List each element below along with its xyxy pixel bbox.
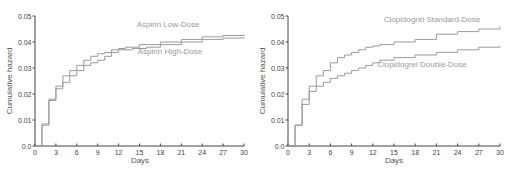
x-tick-label: 6 xyxy=(328,149,332,156)
series-label-double-dose: Clopidogrel Double-Dose xyxy=(377,60,467,69)
y-tick-label: 0.03 xyxy=(271,65,285,72)
x-tick-label: 18 xyxy=(411,149,419,156)
y-axis-label: Cumulative hazard xyxy=(258,48,267,115)
y-tick-label: 0.01 xyxy=(18,117,32,124)
y-tick-label: 0.05 xyxy=(271,13,285,20)
y-tick-label: 0.02 xyxy=(271,91,285,98)
axes: 0369121518212427300.00.010.020.030.040.0… xyxy=(18,13,248,157)
x-axis-label: Days xyxy=(131,156,149,165)
series-lines xyxy=(288,26,500,146)
x-tick-label: 12 xyxy=(369,149,377,156)
x-tick-label: 12 xyxy=(115,149,123,156)
x-tick-label: 30 xyxy=(240,149,248,156)
x-tick-label: 9 xyxy=(96,149,100,156)
x-tick-label: 15 xyxy=(390,149,398,156)
y-tick-label: 0.02 xyxy=(18,91,32,98)
y-tick-label: 0.03 xyxy=(18,65,32,72)
x-tick-label: 18 xyxy=(157,149,165,156)
axes: 0369121518212427300.00.010.020.030.040.0… xyxy=(271,13,504,157)
x-tick-label: 6 xyxy=(75,149,79,156)
x-tick-label: 27 xyxy=(219,149,227,156)
y-tick-label: 0.05 xyxy=(18,13,32,20)
y-tick-label: 0.04 xyxy=(271,39,285,46)
x-tick-label: 3 xyxy=(307,149,311,156)
chart-aspirin: 0369121518212427300.00.010.020.030.040.0… xyxy=(5,13,248,166)
x-tick-label: 24 xyxy=(454,149,462,156)
series-label-low-dose: Aspirin Low-Dose xyxy=(137,20,200,29)
y-tick-label: 0.0 xyxy=(275,143,285,150)
x-tick-label: 21 xyxy=(433,149,441,156)
series-label-standard-dose: Clopidogrel Standard-Dose xyxy=(384,15,481,24)
chart-canvas: 0369121518212427300.00.010.020.030.040.0… xyxy=(0,0,513,175)
series-label-high-dose: Aspirin High-Dose xyxy=(138,47,203,56)
x-tick-label: 9 xyxy=(350,149,354,156)
x-tick-label: 0 xyxy=(33,149,37,156)
x-tick-label: 3 xyxy=(54,149,58,156)
x-tick-label: 21 xyxy=(177,149,185,156)
y-tick-label: 0.01 xyxy=(271,117,285,124)
x-tick-label: 27 xyxy=(475,149,483,156)
x-tick-label: 15 xyxy=(136,149,144,156)
x-tick-label: 30 xyxy=(496,149,504,156)
x-tick-label: 0 xyxy=(286,149,290,156)
y-axis-label: Cumulative hazard xyxy=(5,48,14,115)
x-axis-label: Days xyxy=(385,156,403,165)
y-tick-label: 0.04 xyxy=(18,39,32,46)
y-tick-label: 0.0 xyxy=(22,143,32,150)
x-tick-label: 24 xyxy=(198,149,206,156)
chart-clopidogrel: 0369121518212427300.00.010.020.030.040.0… xyxy=(258,13,504,166)
